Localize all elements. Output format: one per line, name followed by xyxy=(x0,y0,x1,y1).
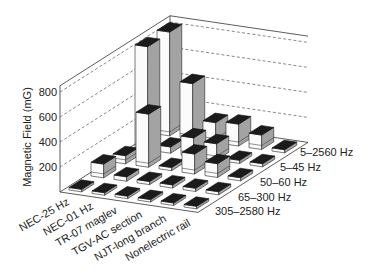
gridline-back-wall xyxy=(170,47,308,67)
y-tick-labels: 200 400 600 800 xyxy=(39,86,57,173)
bar xyxy=(159,158,184,171)
y-tick-label: 200 xyxy=(39,161,57,173)
bar xyxy=(113,146,138,164)
bar xyxy=(138,190,163,202)
bar-side-face xyxy=(149,106,161,167)
bar xyxy=(227,151,252,164)
gridline-back-wall xyxy=(170,22,308,42)
y-axis-label: Magnetic Field (mG) xyxy=(21,87,33,187)
bar xyxy=(69,180,94,192)
bar xyxy=(250,154,275,167)
bar xyxy=(114,167,139,181)
bar-front-face xyxy=(182,152,195,174)
bar xyxy=(91,155,116,178)
depth-category-label: 305–2580 Hz xyxy=(215,205,280,217)
bar xyxy=(92,183,117,195)
chart-3d-bar: Magnetic Field (mG) 200 400 600 800 NEC-… xyxy=(0,0,373,275)
bar xyxy=(136,105,161,168)
bar xyxy=(249,126,274,150)
bar xyxy=(160,175,185,188)
bar xyxy=(161,193,186,205)
bar xyxy=(184,197,209,209)
back-wall-top-edge xyxy=(170,16,308,36)
bar xyxy=(137,172,162,185)
depth-category-label: 5–2560 Hz xyxy=(300,146,353,158)
bar xyxy=(206,182,231,195)
y-tick-label: 800 xyxy=(39,86,57,98)
bar xyxy=(115,187,140,199)
y-tick-label: 600 xyxy=(39,111,57,123)
y-tick-label: 400 xyxy=(39,136,57,148)
bar-front-face xyxy=(249,133,262,149)
bar xyxy=(158,137,183,153)
bar xyxy=(272,140,297,153)
depth-category-label: 50–60 Hz xyxy=(260,176,307,188)
depth-category-label: 65–300 Hz xyxy=(238,191,291,203)
bar xyxy=(183,179,208,192)
bar-front-face xyxy=(136,112,149,167)
bar xyxy=(228,168,253,181)
bar-front-face xyxy=(91,162,104,178)
bar-front-face xyxy=(205,162,218,178)
x-category-labels: NEC-25 Hz NEC-01 Hz TR-07 maglev TGV-AC … xyxy=(17,195,192,263)
depth-category-label: 5–45 Hz xyxy=(280,161,321,173)
bar xyxy=(226,115,251,146)
